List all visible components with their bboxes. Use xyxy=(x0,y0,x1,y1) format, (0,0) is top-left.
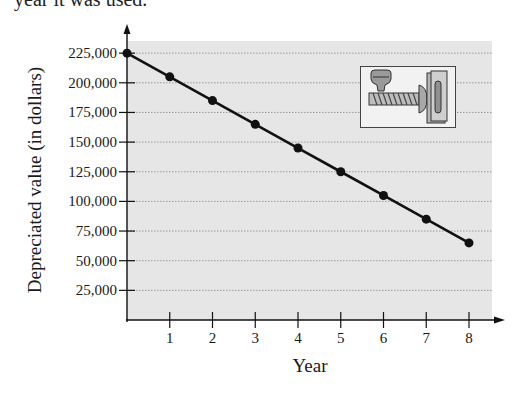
machine-icon xyxy=(361,67,455,127)
x-tick-label: 3 xyxy=(252,330,260,347)
x-tick-label: 5 xyxy=(337,330,345,347)
data-point-marker xyxy=(208,96,217,105)
y-tick-label: 50,000 xyxy=(76,252,117,269)
y-tick-label: 25,000 xyxy=(76,282,117,299)
data-point-marker xyxy=(165,72,174,81)
data-point-marker xyxy=(336,167,345,176)
data-point-marker xyxy=(123,49,132,58)
y-tick-label: 150,000 xyxy=(68,134,117,151)
x-tick-label: 6 xyxy=(380,330,388,347)
y-tick-label: 175,000 xyxy=(68,104,117,121)
y-tick-label: 100,000 xyxy=(68,193,117,210)
injection-molding-machine-illustration xyxy=(360,66,456,128)
y-axis-label: Depreciated value (in dollars) xyxy=(24,67,46,293)
data-point-marker xyxy=(379,191,388,200)
x-axis-arrow-icon xyxy=(494,317,505,324)
y-tick-label: 225,000 xyxy=(68,45,117,62)
data-point-marker xyxy=(251,120,260,129)
x-tick-label: 4 xyxy=(294,330,302,347)
x-axis-label: Year xyxy=(292,355,327,377)
data-point-marker xyxy=(422,215,431,224)
x-tick-label: 8 xyxy=(465,330,473,347)
y-tick-label: 125,000 xyxy=(68,163,117,180)
data-point-marker xyxy=(465,238,474,247)
x-tick-label: 2 xyxy=(209,330,217,347)
x-tick-label: 7 xyxy=(423,330,431,347)
x-tick-label: 1 xyxy=(166,330,174,347)
y-tick-label: 200,000 xyxy=(68,74,117,91)
y-tick-label: 75,000 xyxy=(76,223,117,240)
data-point-marker xyxy=(294,144,303,153)
y-axis-arrow-icon xyxy=(124,24,131,34)
